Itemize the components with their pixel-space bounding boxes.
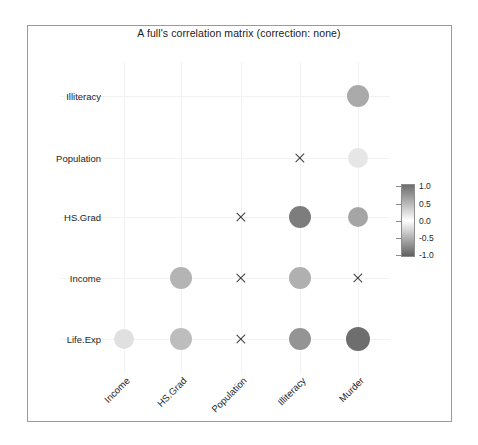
chart-title: A full's correlation matrix (correction:… (0, 27, 478, 39)
matrix-cell-illiteracy-murder[interactable] (347, 85, 369, 107)
not-significant-x-icon (235, 333, 247, 345)
matrix-cell-population-illiteracy[interactable] (294, 152, 306, 164)
colorbar-tick-label: 0.0 (419, 216, 431, 226)
matrix-cell-life-exp-murder[interactable] (346, 327, 370, 351)
correlation-circle (289, 267, 311, 289)
colorbar-tick (396, 221, 401, 222)
colorbar-tick-label: 1.0 (419, 181, 431, 191)
correlation-circle (289, 206, 311, 228)
correlation-circle (348, 207, 368, 227)
matrix-cell-hs-grad-murder[interactable] (348, 207, 368, 227)
not-significant-x-icon (235, 211, 247, 223)
colorbar-gradient (402, 185, 414, 256)
y-axis-label-income: Income (0, 273, 101, 284)
matrix-cell-life-exp-population[interactable] (235, 333, 247, 345)
colorbar-tick (396, 186, 401, 187)
chart-root: A full's correlation matrix (correction:… (0, 0, 478, 445)
matrix-cell-hs-grad-illiteracy[interactable] (289, 206, 311, 228)
matrix-cell-income-murder[interactable] (352, 272, 364, 284)
correlation-circle (289, 328, 311, 350)
colorbar-legend (401, 184, 415, 257)
not-significant-x-icon (235, 272, 247, 284)
colorbar-tick (396, 238, 401, 239)
not-significant-x-icon (352, 272, 364, 284)
colorbar-tick-label: -1.0 (419, 250, 434, 260)
matrix-cell-income-hs-grad[interactable] (170, 267, 192, 289)
not-significant-x-icon (294, 152, 306, 164)
correlation-circle (114, 329, 134, 349)
correlation-circle (170, 328, 192, 350)
plot-panel-border (27, 25, 452, 422)
matrix-cell-life-exp-income[interactable] (114, 329, 134, 349)
colorbar-tick (396, 204, 401, 205)
matrix-cell-life-exp-hs-grad[interactable] (170, 328, 192, 350)
colorbar-tick-label: -0.5 (419, 233, 434, 243)
y-axis-label-population: Population (0, 153, 101, 164)
correlation-circle (347, 85, 369, 107)
matrix-cell-income-illiteracy[interactable] (289, 267, 311, 289)
matrix-cell-life-exp-illiteracy[interactable] (289, 328, 311, 350)
y-axis-label-illiteracy: Illiteracy (0, 91, 101, 102)
correlation-circle (348, 148, 368, 168)
matrix-cell-population-murder[interactable] (348, 148, 368, 168)
correlation-circle (170, 267, 192, 289)
y-axis-label-hs-grad: HS.Grad (0, 212, 101, 223)
colorbar-tick-label: 0.5 (419, 199, 431, 209)
colorbar-tick (396, 255, 401, 256)
matrix-cell-income-population[interactable] (235, 272, 247, 284)
correlation-circle (346, 327, 370, 351)
matrix-cell-hs-grad-population[interactable] (235, 211, 247, 223)
y-axis-label-life-exp: Life.Exp (0, 334, 101, 345)
